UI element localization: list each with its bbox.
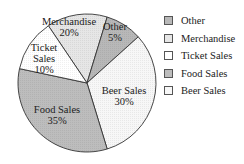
legend-swatch <box>164 86 173 95</box>
legend-item-food-sales: Food Sales <box>164 65 235 83</box>
legend-label: Beer Sales <box>181 85 226 96</box>
legend-item-beer-sales: Beer Sales <box>164 82 235 100</box>
legend-label: Food Sales <box>181 68 227 79</box>
legend-swatch <box>164 51 173 60</box>
legend-label: Merchandise <box>181 33 235 44</box>
legend-swatch <box>164 34 173 43</box>
legend: OtherMerchandiseTicket SalesFood SalesBe… <box>164 12 235 100</box>
legend-item-ticket-sales: Ticket Sales <box>164 47 235 65</box>
legend-item-merchandise: Merchandise <box>164 30 235 48</box>
legend-swatch <box>164 16 173 25</box>
legend-label: Other <box>181 15 205 26</box>
legend-label: Ticket Sales <box>181 50 232 61</box>
pie-chart: Merchandise20%Other5%Beer Sales30%Food S… <box>0 0 160 164</box>
legend-swatch <box>164 69 173 78</box>
legend-item-other: Other <box>164 12 235 30</box>
slice-label-ticket-sales: TicketSales10% <box>31 42 58 75</box>
